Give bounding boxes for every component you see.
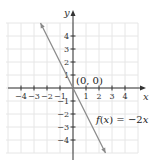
x-tick-label: 2 bbox=[96, 92, 101, 101]
x-tick-label: −3 bbox=[28, 92, 40, 101]
y-tick-label: −1 bbox=[57, 97, 69, 106]
y-tick-label: −4 bbox=[57, 136, 69, 145]
origin-annotation: (0, 0) bbox=[76, 75, 103, 86]
y-tick-label: −3 bbox=[57, 123, 69, 132]
x-tick-label: 1 bbox=[83, 92, 88, 101]
y-tick-label: 4 bbox=[64, 32, 69, 41]
y-axis-label: y bbox=[63, 7, 70, 18]
x-tick-label: −2 bbox=[41, 92, 53, 101]
coordinate-plane: −4−3−2−112344321−1−2−3−4 x y (0, 0) f(x)… bbox=[0, 0, 155, 162]
y-tick-label: −2 bbox=[57, 110, 69, 119]
y-tick-label: 2 bbox=[64, 58, 69, 67]
function-annotation: f(x) = −2x bbox=[95, 114, 149, 125]
x-tick-label: −4 bbox=[15, 92, 27, 101]
y-tick-label: 3 bbox=[64, 45, 69, 54]
x-axis-label: x bbox=[143, 91, 149, 102]
x-tick-label: 4 bbox=[122, 92, 127, 101]
x-tick-label: 3 bbox=[109, 92, 114, 101]
